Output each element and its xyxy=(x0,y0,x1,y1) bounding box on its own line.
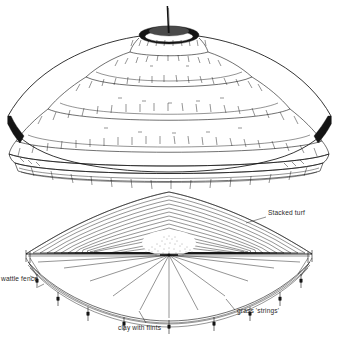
label-wattle-fence: wattle fence xyxy=(0,275,38,282)
label-grass-strings: grass 'strings' xyxy=(237,307,279,315)
archaeological-diagram: Stacked turf wattle fence clay with flin… xyxy=(0,0,338,349)
stippled-core xyxy=(142,230,196,256)
figure-root: Stacked turf wattle fence clay with flin… xyxy=(0,0,338,349)
label-clay-with-flints: clay with flints xyxy=(118,324,162,332)
label-stacked-turf: Stacked turf xyxy=(268,209,305,216)
